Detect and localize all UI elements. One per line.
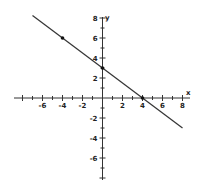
data-point xyxy=(141,96,145,100)
x-axis-label: x xyxy=(186,89,191,97)
y-tick-label: 2 xyxy=(93,75,98,83)
line-series xyxy=(33,16,183,129)
x-tick-label: 2 xyxy=(120,102,125,110)
y-axis-label: y xyxy=(105,14,110,22)
x-tick-label: 8 xyxy=(180,102,185,110)
data-point xyxy=(61,36,65,40)
x-tick-label: 4 xyxy=(140,102,145,110)
coordinate-plane: -6-4-224688642-2-4-6 x y xyxy=(0,0,204,184)
axes xyxy=(14,17,190,180)
y-tick-label: -4 xyxy=(90,135,98,143)
y-tick-label: -2 xyxy=(90,115,98,123)
x-tick-label: -6 xyxy=(39,102,47,110)
y-tick-label: 6 xyxy=(93,35,98,43)
y-tick-label: -6 xyxy=(90,155,98,163)
x-tick-label: -2 xyxy=(79,102,87,110)
plotted-line xyxy=(33,16,183,129)
y-tick-label: 8 xyxy=(93,15,98,23)
data-point xyxy=(101,66,105,70)
x-tick-label: -4 xyxy=(59,102,67,110)
x-tick-label: 6 xyxy=(160,102,165,110)
